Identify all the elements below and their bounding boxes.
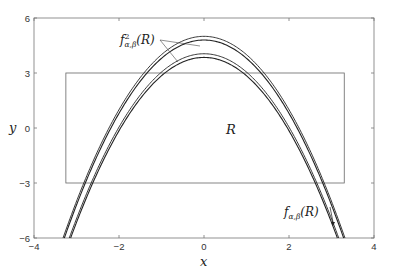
y-axis-label: y xyxy=(8,120,17,135)
x-tick-label: 0 xyxy=(201,241,206,252)
x-tick-label: 4 xyxy=(371,241,376,252)
f1-label: fα,β(R) xyxy=(283,205,319,221)
tick-marks xyxy=(34,18,374,238)
axes-frame xyxy=(34,18,374,238)
annotation-arrows xyxy=(160,40,335,226)
x-tick-label: 2 xyxy=(286,241,291,252)
y-tick-label: 6 xyxy=(25,13,30,24)
x-axis-label: x xyxy=(200,254,208,269)
y-tick-label: 0 xyxy=(25,123,30,134)
x-tick-label: −2 xyxy=(114,241,125,252)
plot-area xyxy=(34,18,374,238)
curve-f1-inner xyxy=(71,57,338,238)
chart: −4−2024−6−3036 R f2α,β(R) fα,β(R) x y xyxy=(0,0,394,280)
region-r-rectangle xyxy=(66,73,344,183)
y-tick-label: −6 xyxy=(19,233,30,244)
y-tick-label: −3 xyxy=(19,178,30,189)
f2-label: f2α,β(R) xyxy=(119,32,155,49)
curve-f1-outer xyxy=(69,54,338,238)
x-tick-label: −4 xyxy=(29,241,40,252)
region-label: R xyxy=(225,122,236,137)
y-tick-label: 3 xyxy=(25,68,30,79)
arrow-f2-lower xyxy=(160,40,178,62)
